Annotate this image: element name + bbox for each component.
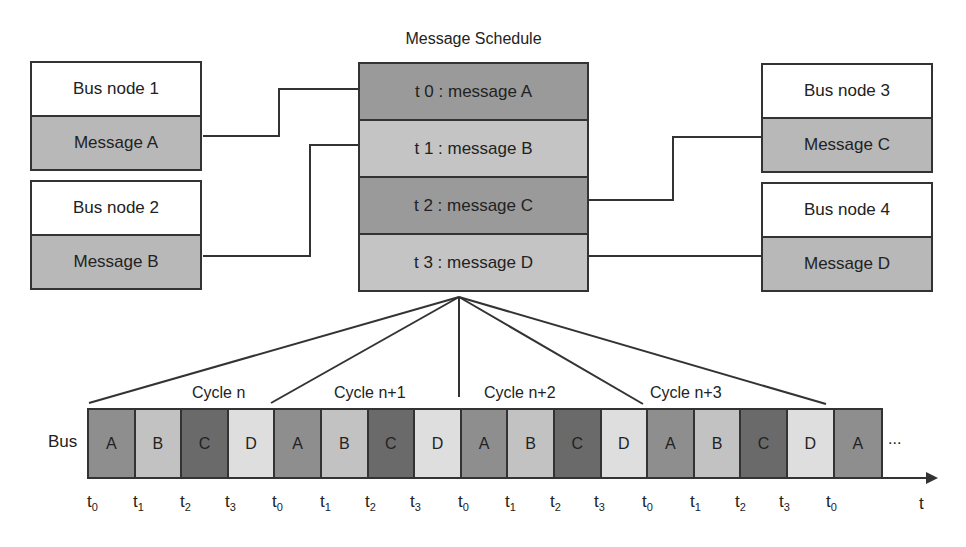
bus-slot: C: [369, 410, 416, 477]
node-message: Message B: [32, 236, 200, 288]
tick-label: t0: [272, 492, 283, 513]
node-name: Bus node 1: [32, 63, 200, 117]
tick-label: t0: [87, 492, 98, 513]
schedule-row-t3: t 3 : message D: [360, 235, 587, 290]
tick-label: t2: [365, 492, 376, 513]
tick-sub: 2: [370, 501, 376, 513]
bus-slot: B: [508, 410, 555, 477]
bus-slot: C: [182, 410, 229, 477]
tick-label: t0: [458, 492, 469, 513]
node-message: Message C: [763, 119, 931, 171]
node-name: Bus node 3: [763, 65, 931, 119]
bus-slot: B: [695, 410, 742, 477]
tick-sub: 0: [463, 501, 469, 513]
bus-node-4: Bus node 4 Message D: [761, 182, 933, 292]
bus-slot: D: [788, 410, 835, 477]
tick-sub: 2: [555, 501, 561, 513]
tick-label: t0: [642, 492, 653, 513]
tick-label: t2: [180, 492, 191, 513]
schedule-title: Message Schedule: [358, 30, 589, 48]
bus-slot: A: [275, 410, 322, 477]
schedule-row-t1: t 1 : message B: [360, 121, 587, 178]
schedule-row-t2: t 2 : message C: [360, 178, 587, 235]
bus-slot: C: [555, 410, 602, 477]
node-name: Bus node 2: [32, 182, 200, 236]
tick-sub: 1: [695, 501, 701, 513]
cycle-label-n1: Cycle n+1: [334, 384, 406, 402]
bus-node-2: Bus node 2 Message B: [30, 180, 202, 290]
bus-slot: D: [229, 410, 276, 477]
cycle-label-n: Cycle n: [192, 384, 245, 402]
bus-timeline: A B C D A B C D A B C D A B C D A: [87, 408, 883, 479]
tick-sub: 1: [325, 501, 331, 513]
tick-sub: 0: [647, 501, 653, 513]
tick-label: t2: [735, 492, 746, 513]
tick-label: t1: [505, 492, 516, 513]
tick-sub: 0: [277, 501, 283, 513]
continuation-ellipsis: ...: [888, 430, 901, 448]
tick-sub: 1: [510, 501, 516, 513]
bus-slot: A: [835, 410, 882, 477]
tick-sub: 2: [740, 501, 746, 513]
axis-arrow-icon: [926, 472, 938, 484]
bus-slot: A: [648, 410, 695, 477]
tick-sub: 2: [185, 501, 191, 513]
tick-label: t3: [410, 492, 421, 513]
bus-node-3: Bus node 3 Message C: [761, 63, 933, 173]
bus-slot: C: [741, 410, 788, 477]
schedule-row-t0: t 0 : message A: [360, 64, 587, 121]
bus-slot: B: [322, 410, 369, 477]
tick-label: t0: [826, 492, 837, 513]
time-axis-label: t: [919, 494, 924, 514]
tick-label: t1: [690, 492, 701, 513]
bus-slot: A: [89, 410, 136, 477]
tick-sub: 0: [831, 501, 837, 513]
message-schedule-table: t 0 : message A t 1 : message B t 2 : me…: [358, 62, 589, 292]
node-name: Bus node 4: [763, 184, 931, 238]
tick-sub: 0: [92, 501, 98, 513]
tick-label: t1: [133, 492, 144, 513]
cycle-label-n3: Cycle n+3: [650, 384, 722, 402]
tick-sub: 3: [599, 501, 605, 513]
bus-slot: D: [602, 410, 649, 477]
tick-sub: 1: [138, 501, 144, 513]
node-message: Message D: [763, 238, 931, 290]
bus-label: Bus: [48, 432, 77, 452]
tick-label: t2: [550, 492, 561, 513]
tick-sub: 3: [415, 501, 421, 513]
cycle-label-n2: Cycle n+2: [484, 384, 556, 402]
bus-slot: B: [136, 410, 183, 477]
tick-label: t3: [779, 492, 790, 513]
bus-slot: A: [462, 410, 509, 477]
tick-label: t3: [225, 492, 236, 513]
tick-sub: 3: [230, 501, 236, 513]
node-message: Message A: [32, 117, 200, 169]
bus-slot: D: [415, 410, 462, 477]
tick-sub: 3: [784, 501, 790, 513]
tick-label: t3: [594, 492, 605, 513]
bus-node-1: Bus node 1 Message A: [30, 61, 202, 171]
tick-label: t1: [320, 492, 331, 513]
